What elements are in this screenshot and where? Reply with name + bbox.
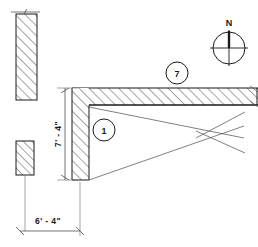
upper-left-wall-hatch [16,14,37,100]
horizontal-dimension-label: 6' - 4" [35,216,61,226]
lower-left-wall-section [16,141,34,231]
upper-left-wall-break-mark [24,9,27,14]
callout-bubble-1[interactable]: 1 [93,119,115,141]
callout-1-label: 1 [101,126,106,136]
callout-bubble-7[interactable]: 7 [166,62,188,84]
upper-left-wall-section [11,9,40,100]
horizontal-beam-hatch [72,88,258,105]
vertical-dimension-label: 7' - 4" [53,121,63,147]
vertical-wall-hatch [72,88,89,180]
lower-left-wall-hatch [16,141,34,175]
diagonal-bracing-lines [89,107,245,180]
architectural-drawing-canvas: 7' - 4" 6' - 4" 7 1 [0,0,258,247]
drawing-sheet: 7' - 4" 6' - 4" 7 1 [0,0,258,247]
horizontal-dimension: 6' - 4" [16,182,84,236]
callout-7-label: 7 [174,69,179,79]
north-arrow-label: N [226,18,233,28]
north-arrow: N [210,18,248,66]
